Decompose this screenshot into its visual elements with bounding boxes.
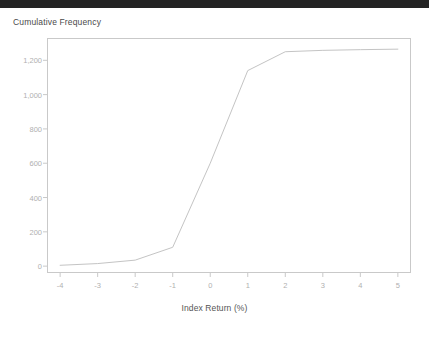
y-axis-tick-label: 400 [8,193,42,202]
x-axis-tick-label: 1 [236,281,260,290]
x-axis-tick-label: -1 [161,281,185,290]
x-axis-tick-label: -3 [86,281,110,290]
y-axis-tick-label: 200 [8,227,42,236]
plot-area [47,38,411,273]
chart-container: 02004006008001,0001,200 -4-3-2-1012345 I… [0,0,429,337]
y-axis-tick-label: 1,000 [8,90,42,99]
x-axis-tick-label: -4 [48,281,72,290]
y-axis-tick-label: 0 [8,262,42,271]
x-axis-tick-label: 0 [198,281,222,290]
x-axis-tick-label: 5 [386,281,410,290]
x-axis-tick-label: 2 [273,281,297,290]
x-axis-tick-label: 3 [311,281,335,290]
y-axis-tick-label: 800 [8,124,42,133]
x-axis-tick-label: -2 [123,281,147,290]
y-axis-tick-label: 1,200 [8,56,42,65]
y-axis-tick-label: 600 [8,159,42,168]
x-axis-label: Index Return (%) [0,303,429,313]
x-axis-tick-labels: -4-3-2-1012345 [0,281,429,293]
x-axis-ticks [60,273,398,277]
x-axis-tick-label: 4 [348,281,372,290]
